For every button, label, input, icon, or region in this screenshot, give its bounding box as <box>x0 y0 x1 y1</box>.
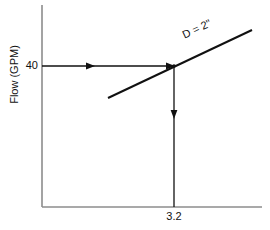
y-axis-title: Flow (GPM) <box>9 33 20 117</box>
y-axis-tick-label-40: 40 <box>18 60 38 71</box>
diameter-readout-arrowhead-mid <box>171 110 178 119</box>
chart-canvas <box>0 0 270 230</box>
x-axis-tick-label-3-2: 3.2 <box>156 211 192 222</box>
flow-readin-arrowhead-mid <box>86 63 95 70</box>
flow-vs-diameter-chart: 40 3.2 Flow (GPM) D = 2" <box>0 0 270 230</box>
intersection-point <box>172 64 176 68</box>
series-line-d2 <box>108 30 252 98</box>
